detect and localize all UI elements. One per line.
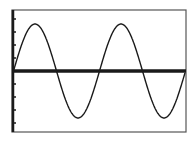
sine-graph: [0, 0, 195, 141]
graph-screen: [0, 0, 195, 141]
